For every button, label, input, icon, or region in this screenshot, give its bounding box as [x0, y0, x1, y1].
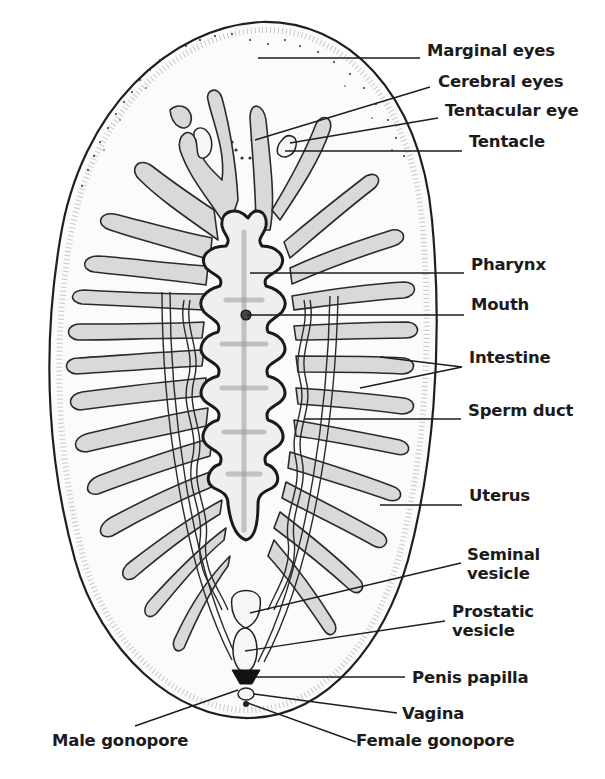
label-vagina: Vagina	[402, 704, 464, 723]
label-uterus: Uterus	[469, 486, 530, 505]
label-female-gonopore: Female gonopore	[356, 731, 514, 750]
label-penis-papilla: Penis papilla	[412, 668, 529, 687]
label-prostatic-vesicle: Prostatic vesicle	[452, 602, 572, 640]
label-prostatic-vesicle-line2: vesicle	[452, 621, 572, 640]
label-seminal-vesicle-line1: Seminal	[467, 545, 587, 564]
label-cerebral-eyes: Cerebral eyes	[438, 72, 563, 91]
label-male-gonopore: Male gonopore	[52, 731, 188, 750]
label-pharynx: Pharynx	[471, 255, 546, 274]
label-sperm-duct: Sperm duct	[468, 401, 573, 420]
label-marginal-eyes: Marginal eyes	[427, 41, 555, 60]
label-tentacle: Tentacle	[469, 132, 545, 151]
flatworm-anatomy-figure: Marginal eyes Cerebral eyes Tentacular e…	[0, 0, 605, 779]
label-prostatic-vesicle-line1: Prostatic	[452, 602, 572, 621]
label-seminal-vesicle: Seminal vesicle	[467, 545, 587, 583]
label-tentacular-eye: Tentacular eye	[445, 101, 579, 120]
leader-female-gonopore	[245, 702, 356, 742]
label-intestine: Intestine	[469, 348, 550, 367]
label-seminal-vesicle-line2: vesicle	[467, 564, 587, 583]
label-mouth: Mouth	[471, 295, 529, 314]
